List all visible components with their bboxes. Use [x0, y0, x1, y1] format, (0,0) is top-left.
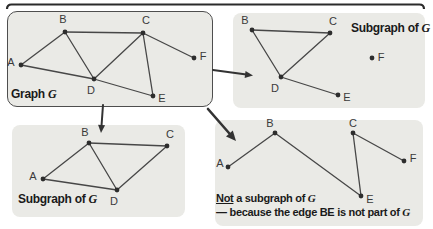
subgraph-bottom-vertex-D-label: D [110, 195, 118, 207]
subgraph-right-edge-B-C [252, 30, 330, 33]
diagram-svg: ABCDEFBCDEFABCDABCEF [0, 0, 433, 229]
graph-g-vertex-B-label: B [59, 13, 66, 25]
subgraph-bottom-vertex-A-dot [41, 177, 46, 182]
graph-g-edge-B-D [65, 32, 94, 79]
not-subgraph-vertex-C-dot [351, 131, 356, 136]
subgraph-right-edge-C-D [281, 33, 330, 77]
graph-g-vertex-C-dot [141, 31, 146, 36]
subgraph-right-edge-B-D [252, 30, 281, 77]
subgraph-bottom-vertex-B-label: B [81, 126, 88, 138]
graph-g-edge-B-C [65, 32, 143, 33]
graph-g-edge-D-E [94, 79, 153, 96]
subgraph-right-vertex-E-label: E [343, 91, 350, 103]
not-subgraph-vertex-A-dot [226, 165, 231, 170]
not-subgraph-edge-C-F [353, 133, 404, 161]
not-subgraph-vertex-F-label: F [410, 152, 417, 164]
subgraph-bottom-edge-A-B [43, 143, 89, 179]
not-subgraph-vertex-E-dot [359, 194, 364, 199]
graph-g-edge-A-B [21, 32, 65, 65]
subgraph-right-vertex-C-dot [328, 31, 333, 36]
subgraph-bottom-vertex-B-dot [87, 141, 92, 146]
graph-g-vertex-D-label: D [87, 84, 95, 96]
graph-g-vertex-E-label: E [158, 92, 165, 104]
subgraph-right-vertex-F-dot [370, 56, 375, 61]
arrow-to-subgraph-bottom-head [98, 125, 105, 133]
not-subgraph-vertex-A-label: A [216, 157, 224, 169]
subgraph-right-vertex-E-dot [336, 93, 341, 98]
graph-g-vertex-A-dot [19, 63, 24, 68]
subgraph-bottom-edge-C-D [117, 146, 167, 190]
subgraph-right-vertex-F-label: F [378, 51, 385, 63]
subgraph-right-vertex-B-dot [250, 28, 255, 33]
graph-g-vertex-A-label: A [7, 56, 15, 68]
graph-g-vertex-F-label: F [200, 50, 207, 62]
graph-g-vertex-E-dot [151, 94, 156, 99]
graph-g-vertex-C-label: C [142, 14, 150, 26]
subgraph-right-vertex-C-label: C [329, 15, 337, 27]
subgraph-right-edge-D-E [281, 77, 338, 95]
arrow-to-subgraph-bottom-shaft [101, 105, 103, 128]
subgraph-right-vertex-D-dot [279, 75, 284, 80]
not-subgraph-vertex-B-label: B [266, 117, 273, 129]
not-subgraph-edge-B-E [275, 133, 361, 196]
subgraph-bottom-edge-B-C [89, 143, 167, 146]
subgraph-right-vertex-B-label: B [241, 14, 248, 26]
not-subgraph-vertex-E-label: E [366, 193, 373, 205]
not-subgraph-edge-C-E [353, 133, 361, 196]
subgraph-bottom-vertex-D-dot [115, 188, 120, 193]
graph-g-edge-C-F [143, 33, 194, 58]
top-rule [7, 5, 424, 10]
graph-g-vertex-D-dot [92, 77, 97, 82]
subgraph-bottom-vertex-A-label: A [29, 170, 37, 182]
subgraph-bottom-edge-A-D [43, 179, 117, 190]
not-subgraph-vertex-F-dot [402, 159, 407, 164]
graph-g-vertex-B-dot [63, 30, 68, 35]
subgraph-bottom-edge-B-D [89, 143, 117, 190]
arrow-to-subgraph-right-head [245, 71, 253, 78]
not-subgraph-vertex-C-label: C [349, 117, 357, 129]
not-subgraph-vertex-B-dot [273, 131, 278, 136]
figure: ABCDEFBCDEFABCDABCEF Graph GSubgraph of … [0, 0, 433, 229]
graph-g-edge-A-D [21, 65, 94, 79]
graph-g-vertex-F-dot [192, 56, 197, 61]
graph-g-edge-C-D [94, 33, 143, 79]
subgraph-bottom-vertex-C-label: C [166, 128, 174, 140]
subgraph-bottom-vertex-C-dot [165, 144, 170, 149]
subgraph-right-vertex-D-label: D [271, 82, 279, 94]
graph-g-edge-C-E [143, 33, 153, 96]
arrow-to-not-subgraph-shaft [208, 109, 232, 136]
arrow-to-subgraph-right-shaft [213, 70, 248, 75]
